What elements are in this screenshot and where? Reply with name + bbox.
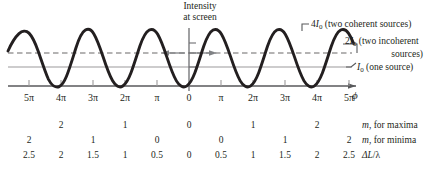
coherent-intensity-curve — [8, 29, 354, 87]
data-row-m-for-maxima: 21012m, for maxima — [0, 120, 429, 135]
path-length-difference-label-symbol: ΔL — [362, 150, 373, 160]
x-tick-label-6: π — [204, 92, 238, 103]
arrowhead-right — [209, 50, 217, 55]
x-tick-label-9: 4π — [300, 92, 334, 103]
m-for-minima-label-symbol: m — [362, 135, 369, 145]
path-length-difference-cell: 1 — [108, 150, 142, 160]
m-for-maxima-label: m, for maxima — [362, 120, 418, 130]
path-length-difference-cell: 2.5 — [332, 150, 366, 160]
interference-intensity-figure: Intensity at screen — [0, 0, 429, 173]
leader-line-i0 — [346, 63, 356, 67]
data-row-path-difference: 2.521.510.500.511.522.5ΔL/λ — [0, 150, 429, 165]
m-for-maxima-label-text: , for maxima — [369, 120, 418, 130]
data-row-m-for-minima: 210012m, for minima — [0, 135, 429, 150]
path-length-difference-cell: 1.5 — [268, 150, 302, 160]
x-tick-label-1: 4π — [44, 92, 78, 103]
path-length-difference-cell: 1.5 — [76, 150, 110, 160]
path-length-difference-label: ΔL/λ — [362, 150, 380, 160]
x-tick-label-0: 5π — [12, 92, 46, 103]
x-tick-label-3: 2π — [108, 92, 142, 103]
path-length-difference-cell: 2.5 — [12, 150, 46, 160]
x-tick-label-2: 3π — [76, 92, 110, 103]
x-tick-label-4: π — [140, 92, 174, 103]
path-length-difference-cell: 0.5 — [204, 150, 238, 160]
leader-line-4i0 — [302, 24, 309, 31]
annotation-i0-text: (one source) — [366, 62, 413, 72]
annotation-2i0-text: (two incoherent — [359, 36, 419, 46]
m-for-minima-cell: 2 — [332, 135, 366, 145]
m-for-maxima-cell: 0 — [172, 120, 206, 130]
m-for-maxima-cell: 1 — [108, 120, 142, 130]
path-length-difference-cell: 2 — [300, 150, 334, 160]
path-length-difference-cell: 0 — [172, 150, 206, 160]
annotation-4i0-subscript: 0 — [319, 23, 323, 31]
annotation-2i0-subscript: 0 — [353, 40, 357, 48]
m-for-minima-label: m, for minima — [362, 135, 416, 145]
m-for-maxima-cell: 1 — [236, 120, 270, 130]
vertical-axis-ticks — [189, 43, 196, 67]
path-length-difference-cell: 1 — [236, 150, 270, 160]
x-axis-label: ϕ — [352, 89, 358, 101]
annotation-2i0: 2I0 (two incoherent sources) — [345, 36, 429, 60]
m-for-maxima-cell: 2 — [44, 120, 78, 130]
m-for-minima-cell: 1 — [268, 135, 302, 145]
m-for-minima-cell: 0 — [204, 135, 238, 145]
m-for-minima-cell: 2 — [12, 135, 46, 145]
path-length-difference-cell: 2 — [44, 150, 78, 160]
annotation-i0: I0 (one source) — [357, 62, 413, 75]
annotation-4i0: 4I0 (two coherent sources) — [311, 19, 411, 32]
x-tick-label-10: 5π — [332, 92, 366, 103]
x-tick-label-8: 3π — [268, 92, 302, 103]
annotation-2i0-text-line2: sources) — [345, 49, 429, 60]
m-for-minima-cell: 1 — [76, 135, 110, 145]
path-length-difference-label-text: /λ — [373, 150, 380, 160]
m-for-maxima-cell: 2 — [300, 120, 334, 130]
x-tick-label-7: 2π — [236, 92, 270, 103]
path-length-difference-cell: 0.5 — [140, 150, 174, 160]
m-for-minima-cell: 0 — [140, 135, 174, 145]
m-for-minima-label-text: , for minima — [369, 135, 416, 145]
annotation-4i0-text: (two coherent sources) — [325, 19, 412, 29]
annotation-i0-subscript: 0 — [360, 66, 364, 74]
x-tick-label-5: 0 — [172, 92, 206, 103]
m-for-maxima-label-symbol: m — [362, 120, 369, 130]
